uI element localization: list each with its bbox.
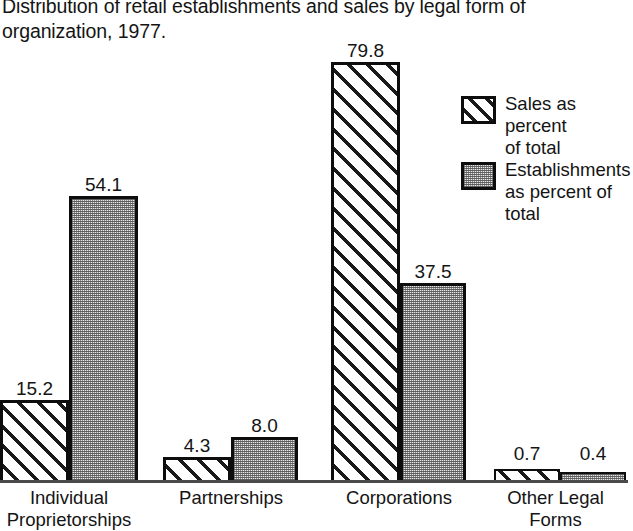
bar-sales-corporations (331, 62, 400, 483)
category-label-corporations: Corporations (320, 487, 478, 509)
value-label-sales-other-legal-forms: 0.7 (494, 444, 560, 463)
legend-swatch-sales-hatch-icon (461, 96, 496, 124)
bar-establishments-corporations (400, 283, 466, 483)
category-label-individual-proprietorships: Individual Proprietorships (0, 487, 148, 531)
value-label-sales-individual-proprietorships: 15.2 (0, 379, 69, 398)
value-label-establishments-individual-proprietorships: 54.1 (69, 175, 138, 194)
value-label-establishments-corporations: 37.5 (400, 262, 466, 281)
value-label-establishments-other-legal-forms: 0.4 (560, 444, 626, 463)
legend-label-sales: Sales as percent of total (505, 93, 633, 159)
value-label-sales-partnerships: 4.3 (163, 436, 231, 455)
value-label-sales-corporations: 79.8 (331, 41, 400, 60)
bar-sales-individual-proprietorships (0, 400, 69, 483)
bar-establishments-partnerships (231, 437, 298, 483)
x-axis-line (0, 480, 628, 483)
legend-label-establishments: Establishments as percent of total (505, 159, 633, 225)
bar-establishments-individual-proprietorships (69, 196, 138, 483)
legend-swatch-establishments-dots-icon (461, 162, 496, 190)
value-label-establishments-partnerships: 8.0 (231, 416, 298, 435)
category-label-other-legal-forms: Other Legal Forms (483, 487, 628, 531)
category-label-partnerships: Partnerships (152, 487, 310, 509)
